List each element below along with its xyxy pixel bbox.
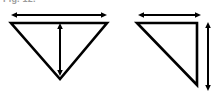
figure-container: Fig. 12. bbox=[0, 0, 217, 95]
arrow-group bbox=[17, 15, 208, 85]
right-triangle-shape bbox=[137, 23, 197, 85]
shape-group bbox=[11, 23, 197, 85]
figure-diagram bbox=[0, 0, 217, 95]
